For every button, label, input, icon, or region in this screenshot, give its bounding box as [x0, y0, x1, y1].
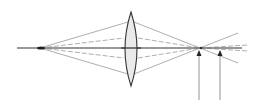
optics-diagram — [0, 0, 260, 107]
focus-point — [200, 47, 203, 50]
arrow-up-icon — [197, 50, 202, 56]
marker-arrow-2 — [218, 50, 223, 100]
marker-arrow-1 — [197, 50, 202, 100]
arrow-up-icon — [218, 50, 223, 56]
biconvex-lens — [125, 12, 137, 86]
source-point — [37, 47, 45, 50]
